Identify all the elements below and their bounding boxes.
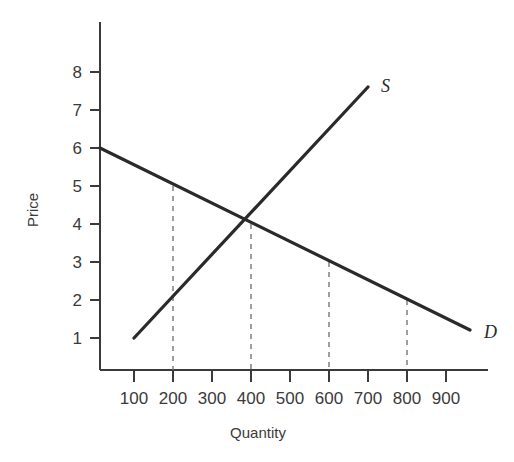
supply-curve <box>134 87 368 338</box>
y-tick-label-7: 7 <box>73 101 82 120</box>
y-axis-title: Price <box>24 193 41 227</box>
x-tick-label-500: 500 <box>276 389 304 408</box>
y-tick-label-5: 5 <box>73 177 82 196</box>
supply-curve-label: S <box>381 76 390 96</box>
chart-figure: 8 7 6 5 4 3 2 1 100 200 300 400 500 600 … <box>0 0 514 462</box>
x-tick-label-400: 400 <box>237 389 265 408</box>
y-axis-ticks <box>90 72 100 338</box>
y-tick-label-2: 2 <box>73 291 82 310</box>
x-tick-label-900: 900 <box>432 389 460 408</box>
dashed-guide-lines <box>173 186 407 370</box>
y-tick-label-6: 6 <box>73 139 82 158</box>
x-tick-label-700: 700 <box>354 389 382 408</box>
y-tick-label-1: 1 <box>73 329 82 348</box>
x-axis-ticks <box>134 370 446 382</box>
demand-curve-label: D <box>483 322 497 342</box>
x-tick-label-800: 800 <box>393 389 421 408</box>
x-axis-title: Quantity <box>230 424 286 441</box>
y-tick-label-3: 3 <box>73 253 82 272</box>
supply-demand-chart: 8 7 6 5 4 3 2 1 100 200 300 400 500 600 … <box>0 0 514 462</box>
x-tick-label-200: 200 <box>159 389 187 408</box>
x-tick-label-600: 600 <box>315 389 343 408</box>
y-tick-label-8: 8 <box>73 63 82 82</box>
x-tick-label-100: 100 <box>120 389 148 408</box>
x-tick-label-300: 300 <box>198 389 226 408</box>
y-tick-label-4: 4 <box>73 215 82 234</box>
